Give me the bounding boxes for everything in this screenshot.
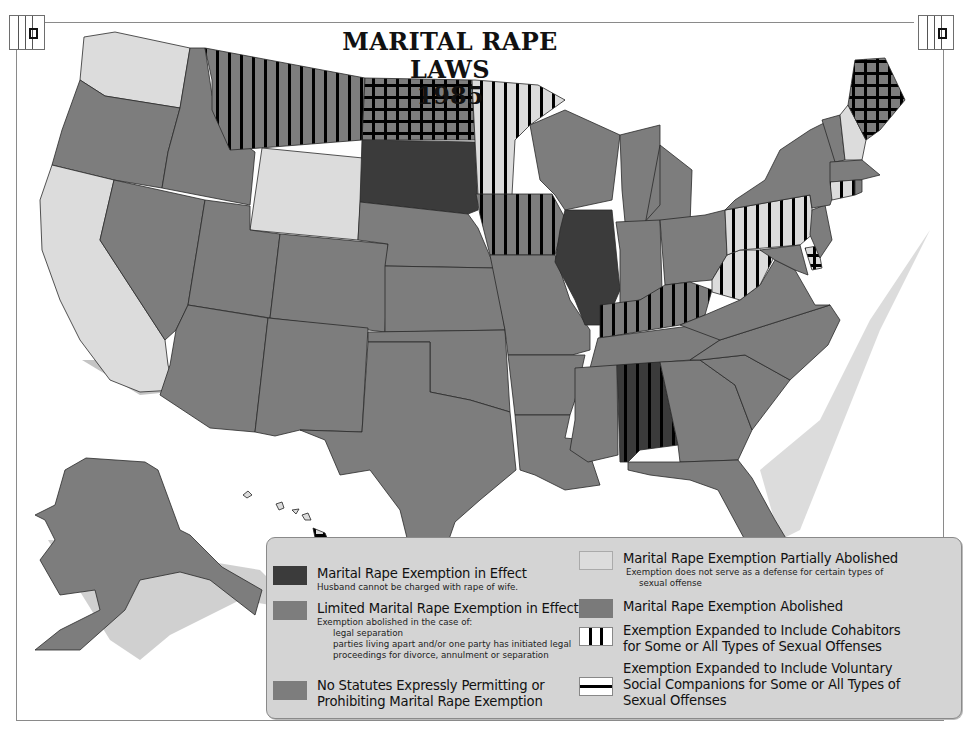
swatch-mid <box>273 681 307 700</box>
state-michigan <box>620 125 692 225</box>
state-new-york <box>725 120 838 210</box>
state-arkansas <box>508 355 585 415</box>
legend-subtitle: Exemption abolished in the case of: <box>317 617 579 628</box>
legend-subtitle: sexual offense <box>623 578 898 589</box>
legend-subtitle: Exemption does not serve as a defense fo… <box>623 567 898 578</box>
legend-title: Exemption Expanded to Include Voluntary <box>623 661 900 677</box>
state-new-mexico <box>255 318 368 436</box>
legend-item-partially-abolished: Marital Rape Exemption Partially Abolish… <box>579 551 898 589</box>
state-south-dakota <box>360 140 478 214</box>
state-connecticut <box>830 180 855 200</box>
horizontal-stripe-swatch-icon <box>579 677 613 696</box>
legend-title: for Some or All Types of Sexual Offenses <box>623 639 900 655</box>
swatch-light <box>579 551 613 570</box>
swatch-mid <box>579 599 613 618</box>
legend-title: No Statutes Expressly Permitting or <box>317 678 545 694</box>
swatch-mid <box>273 601 307 620</box>
legend-subtitle: proceedings for divorce, annulment or se… <box>317 650 579 661</box>
map-title: MARITAL RAPE LAWS 1985 <box>300 28 600 108</box>
legend-item-no-statutes: No Statutes Expressly Permitting or Proh… <box>273 678 545 710</box>
legend-item-exemption-in-effect: Marital Rape Exemption in Effect Husband… <box>273 566 527 593</box>
legend-title: Prohibiting Marital Rape Exemption <box>317 694 545 710</box>
legend: Marital Rape Exemption in Effect Husband… <box>266 537 962 719</box>
legend-item-cohabitors: Exemption Expanded to Include Cohabitors… <box>579 623 900 655</box>
state-rhode-island <box>855 180 862 195</box>
legend-subtitle: Husband cannot be charged with rape of w… <box>317 582 527 593</box>
legend-subtitle: legal separation <box>317 628 579 639</box>
state-mississippi <box>570 365 618 462</box>
legend-item-abolished: Marital Rape Exemption Abolished <box>579 599 843 618</box>
state-kansas <box>385 266 505 332</box>
legend-title: Limited Marital Rape Exemption in Effect <box>317 601 579 617</box>
legend-title: Exemption Expanded to Include Cohabitors <box>623 623 900 639</box>
vertical-stripes-swatch-icon <box>579 627 613 646</box>
state-iowa <box>476 194 565 255</box>
state-colorado <box>270 234 388 332</box>
state-massachusetts <box>830 160 880 182</box>
title-line-2: 1985 <box>300 84 600 108</box>
swatch-dark <box>273 566 307 585</box>
title-line-1: MARITAL RAPE LAWS <box>300 28 600 84</box>
legend-title: Marital Rape Exemption Partially Abolish… <box>623 551 898 567</box>
legend-item-limited-exemption: Limited Marital Rape Exemption in Effect… <box>273 601 579 661</box>
legend-title: Marital Rape Exemption in Effect <box>317 566 527 582</box>
legend-title: Sexual Offenses <box>623 693 900 709</box>
legend-item-social-companions: Exemption Expanded to Include Voluntary … <box>579 661 900 709</box>
legend-subtitle: parties living apart and/or one party ha… <box>317 639 579 650</box>
legend-title: Marital Rape Exemption Abolished <box>623 599 843 615</box>
state-wyoming <box>250 148 363 240</box>
legend-title: Social Companions for Some or All Types … <box>623 677 900 693</box>
